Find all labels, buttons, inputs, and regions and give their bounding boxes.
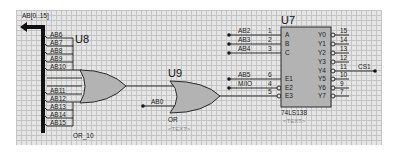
pin-number: 12 xyxy=(340,54,348,61)
pin-number: 3 xyxy=(268,45,272,52)
net-label: AB11 xyxy=(50,87,66,94)
net-label: AB2 xyxy=(238,27,251,34)
pin-number: 14 xyxy=(340,36,348,43)
pin-number: 1 xyxy=(268,27,272,34)
bus-arrow-icon xyxy=(20,22,27,32)
bus-label: AB[0..15] xyxy=(22,12,49,20)
u8-ref: U8 xyxy=(75,33,89,45)
pin-name: E1 xyxy=(285,75,293,82)
u9-input-ab0: AB0 xyxy=(141,98,177,108)
or-gate-shape xyxy=(80,70,126,103)
pin-name: Y4 xyxy=(318,67,326,74)
u9-ref: U9 xyxy=(168,67,182,79)
net-label: AB0 xyxy=(151,98,164,105)
net-label: AB12 xyxy=(50,95,66,102)
pin-number: 10 xyxy=(340,71,348,78)
pin-name: Y6 xyxy=(318,84,326,91)
or-gate-shape xyxy=(170,81,220,113)
output-net-label: CS1 xyxy=(358,63,371,70)
pin-name: Y0 xyxy=(318,31,326,38)
pin-number: 7 xyxy=(340,88,344,95)
pin-number: 11 xyxy=(340,63,347,70)
pin-name: Y7 xyxy=(318,92,326,99)
u7-decoder-chip[interactable]: U7 A B C E1 E2 E3 Y0 Y1 Y2 Y3 Y4 Y5 Y6 Y… xyxy=(281,14,331,124)
pin-number: 4 xyxy=(268,80,272,87)
pin-name: Y3 xyxy=(318,58,326,65)
inversion-bubble-icon xyxy=(277,94,281,98)
net-label: AB5 xyxy=(238,71,251,78)
net-label: AB15 xyxy=(50,119,66,126)
u7-right-pins: 15 14 13 12 11 10 9 7 CS1 xyxy=(331,27,377,98)
pin-name: Y1 xyxy=(318,40,326,47)
pin-number: 13 xyxy=(340,45,348,52)
u7-ref: U7 xyxy=(281,14,295,26)
net-label: AB7 xyxy=(50,39,63,46)
net-label: AB6 xyxy=(50,31,63,38)
u9-part: OR xyxy=(168,116,178,123)
net-label: AB9 xyxy=(50,55,63,62)
pin-name: E2 xyxy=(285,84,293,91)
pin-name: Y5 xyxy=(318,75,326,82)
u9-or-gate[interactable]: U9 OR <TEXT> xyxy=(168,67,220,132)
net-label: AB4 xyxy=(238,45,251,52)
u8-part: OR_10 xyxy=(73,132,94,140)
u9-text-placeholder: <TEXT> xyxy=(168,126,191,132)
net-label: AB3 xyxy=(238,36,251,43)
u7-left-pins: AB2 AB3 AB4 AB5 M/IO 1 2 3 6 4 5 xyxy=(227,27,281,98)
address-bus[interactable]: AB[0..15] xyxy=(20,12,49,133)
pin-name: A xyxy=(285,31,290,38)
pin-name: E3 xyxy=(285,92,293,99)
bus-line[interactable] xyxy=(26,27,43,133)
net-label: AB14 xyxy=(50,111,66,118)
pin-name: B xyxy=(285,40,289,47)
pin-name: C xyxy=(285,49,290,56)
net-label: M/IO xyxy=(238,80,252,87)
u7-text-placeholder: <TEXT> xyxy=(283,118,306,124)
pin-number: 9 xyxy=(340,80,344,87)
junction-dot-icon xyxy=(373,69,377,73)
net-label: AB13 xyxy=(50,103,66,110)
u7-part: 74LS138 xyxy=(281,109,307,116)
inversion-bubble-icon xyxy=(277,86,281,90)
schematic-drawing: AB[0..15] AB6 AB7 AB8 AB9 AB10 AB11 AB12… xyxy=(0,0,393,153)
pin-number: 2 xyxy=(268,36,272,43)
pin-number: 5 xyxy=(268,88,272,95)
net-label: AB8 xyxy=(50,47,63,54)
pin-name: Y2 xyxy=(318,49,326,56)
pin-number: 6 xyxy=(268,71,272,78)
pin-number: 15 xyxy=(340,27,348,34)
net-label: AB10 xyxy=(50,63,66,70)
